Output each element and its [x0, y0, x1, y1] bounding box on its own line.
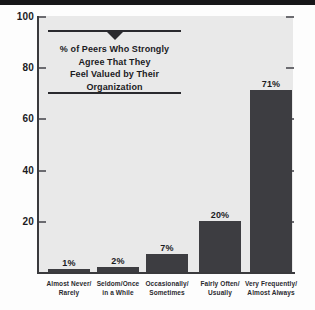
bar-very-frequently-almost-always [250, 90, 292, 272]
x-axis-label-very-frequently-almost-always: Very Frequently/ Almost Always [236, 279, 306, 297]
value-label-20: 20% [199, 210, 241, 220]
value-label-7: 7% [146, 243, 188, 253]
chart-title-line: Organization [48, 81, 181, 94]
y-axis-label-60: 60 [4, 113, 34, 124]
triangle-pointer-icon [107, 32, 123, 40]
y-tick-right-100 [286, 16, 294, 18]
bar-seldom-once-in-a-while [97, 267, 139, 272]
y-tick-40 [39, 170, 46, 172]
value-label-2: 2% [97, 256, 139, 266]
chart-title: % of Peers Who Strongly Agree That They … [48, 43, 181, 93]
y-tick-80 [39, 67, 46, 69]
y-tick-100 [39, 16, 46, 18]
chart-title-line: Feel Valued by Their [48, 68, 181, 81]
y-tick-20 [39, 221, 46, 223]
chart-title-line: % of Peers Who Strongly [48, 43, 181, 56]
chart-title-line: Agree That They [48, 56, 181, 69]
y-axis-label-40: 40 [4, 165, 34, 176]
y-tick-60 [39, 118, 46, 120]
value-label-1: 1% [48, 258, 90, 268]
y-tick-right-80 [286, 67, 294, 69]
bar-fairly-often-usually [199, 221, 241, 272]
value-label-71: 71% [250, 79, 292, 89]
x-axis-label-line: Almost Always [236, 288, 306, 297]
y-axis-label-80: 80 [4, 62, 34, 73]
bar-occasionally-sometimes [146, 254, 188, 272]
y-axis-label-20: 20 [4, 216, 34, 227]
y-axis-label-100: 100 [4, 11, 34, 22]
y-axis-line [37, 16, 39, 274]
bar-almost-never-rarely [48, 269, 90, 272]
x-axis-label-line: Very Frequently/ [236, 279, 306, 288]
x-axis-line [37, 272, 295, 274]
bar-chart: 100 80 60 40 20 1% 2% 7% 20% 71% Almost … [0, 0, 315, 310]
